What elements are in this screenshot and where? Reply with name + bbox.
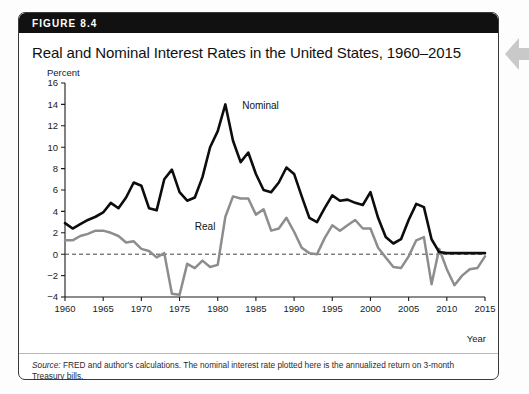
y-axis-tick-label: 0 — [53, 249, 58, 260]
margin-arrow-tail-icon — [517, 48, 529, 60]
figure-title: Real and Nominal Interest Rates in the U… — [19, 33, 498, 61]
x-axis-tick-label: 2010 — [436, 303, 457, 314]
y-axis-tick-label: 10 — [47, 142, 58, 153]
x-axis-tick-label: 1975 — [169, 303, 190, 314]
x-axis-tick-label: 2000 — [360, 303, 381, 314]
y-axis-tick-label: −4 — [47, 291, 58, 302]
x-axis-tick-label: 2005 — [398, 303, 419, 314]
y-axis-tick-label: 8 — [53, 163, 58, 174]
figure-panel: FIGURE 8.4 Real and Nominal Interest Rat… — [18, 12, 499, 380]
figure-number-label: FIGURE 8.4 — [32, 18, 97, 29]
x-axis-tick-label: 1990 — [284, 303, 305, 314]
x-axis-tick-label: 1970 — [131, 303, 152, 314]
chart-area: Percent Year −4−202468101214161960196519… — [19, 65, 498, 327]
y-axis-tick-label: 6 — [53, 184, 58, 195]
x-axis-tick-label: 1965 — [93, 303, 114, 314]
series-annotation-nominal: Nominal — [242, 100, 279, 111]
y-axis-tick-label: 4 — [53, 206, 58, 217]
source-body: FRED and author's calculations. The nomi… — [32, 360, 454, 380]
series-line-real — [65, 196, 485, 294]
source-note: Source: FRED and author's calculations. … — [32, 360, 484, 380]
x-axis-title: Year — [467, 333, 486, 344]
y-axis-tick-label: 14 — [47, 99, 58, 110]
x-axis-tick-label: 2015 — [474, 303, 495, 314]
x-axis-tick-label: 1985 — [245, 303, 266, 314]
y-axis-tick-label: 2 — [53, 227, 58, 238]
x-axis-tick-label: 1995 — [322, 303, 343, 314]
source-divider — [19, 353, 498, 354]
series-annotation-real: Real — [195, 221, 216, 232]
x-axis-tick-label: 1980 — [207, 303, 228, 314]
interest-rates-line-chart: −4−2024681012141619601965197019751980198… — [19, 65, 499, 327]
y-axis-tick-label: −2 — [47, 270, 58, 281]
y-axis-tick-label: 16 — [47, 77, 58, 88]
y-axis-tick-label: 12 — [47, 120, 58, 131]
x-axis-tick-label: 1960 — [54, 303, 75, 314]
figure-header-bar: FIGURE 8.4 — [19, 13, 498, 33]
source-prefix: Source: — [32, 360, 61, 370]
